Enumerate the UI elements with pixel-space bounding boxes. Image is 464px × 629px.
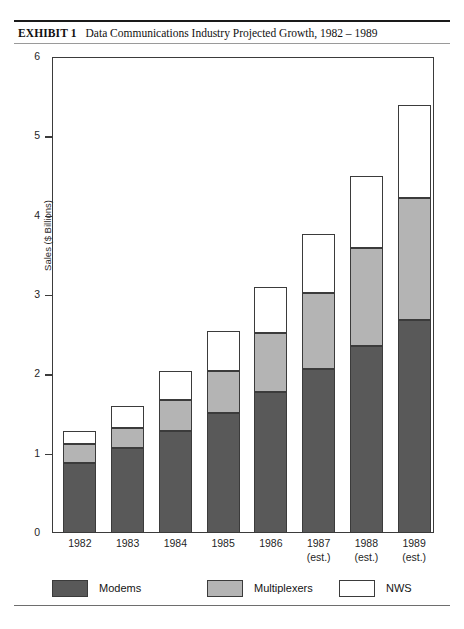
bar-group	[350, 57, 383, 533]
legend-swatch-modems	[52, 580, 88, 597]
bar-segment-modems	[350, 346, 383, 533]
x-axis-tick-label: 1983	[102, 536, 154, 550]
bar-segment-nws	[302, 234, 335, 293]
exhibit-label: EXHIBIT 1	[18, 27, 77, 39]
bar-segment-nws	[398, 105, 431, 199]
y-axis-tick-mark	[45, 374, 52, 375]
header-rule-top	[14, 20, 450, 22]
footer-rule	[14, 605, 450, 606]
x-axis-tick-label: 1986	[245, 536, 297, 550]
legend-swatch-multiplexers	[207, 580, 243, 597]
bar-segment-nws	[254, 287, 287, 333]
y-axis-tick-mark	[45, 454, 52, 455]
bar-group	[111, 57, 144, 533]
bar-segment-modems	[207, 413, 240, 533]
y-axis-tick-label: 3	[34, 288, 40, 301]
x-axis-year: 1985	[211, 537, 234, 549]
bar-segment-modems	[302, 369, 335, 533]
x-axis-year: 1984	[164, 537, 187, 549]
x-axis-year: 1987	[307, 537, 330, 549]
y-axis-tick-mark	[45, 57, 52, 58]
x-axis-year: 1982	[68, 537, 91, 549]
x-axis-year: 1983	[116, 537, 139, 549]
bar-segment-modems	[63, 463, 96, 533]
y-axis-tick: 5	[0, 136, 52, 137]
x-axis-tick-label: 1988(est.)	[340, 536, 392, 564]
bar-segment-multiplexers	[350, 248, 383, 346]
bar-segment-nws	[159, 371, 192, 400]
x-axis-tick-label: 1985	[197, 536, 249, 550]
bar-segment-nws	[350, 176, 383, 248]
y-axis-tick-label: 5	[34, 129, 40, 142]
y-axis-tick-label: 1	[34, 447, 40, 460]
bar-group	[254, 57, 287, 533]
x-axis-year: 1989	[402, 537, 425, 549]
bar-segment-multiplexers	[302, 293, 335, 369]
x-axis-tick-label: 1987(est.)	[293, 536, 345, 564]
bar-segment-multiplexers	[111, 428, 144, 448]
bar-segment-multiplexers	[207, 371, 240, 413]
x-axis-estimate-note: (est.)	[293, 550, 345, 564]
legend-swatch-nws	[339, 580, 375, 597]
bar-segment-multiplexers	[398, 198, 431, 320]
bar-segment-modems	[159, 431, 192, 533]
bar-segment-multiplexers	[254, 333, 287, 392]
y-axis-tick: 0	[0, 533, 52, 534]
bar-group	[159, 57, 192, 533]
exhibit-title-row: EXHIBIT 1Data Communications Industry Pr…	[18, 24, 448, 42]
bar-segment-multiplexers	[159, 400, 192, 432]
x-axis-tick-label: 1984	[149, 536, 201, 550]
legend-label: NWS	[386, 582, 412, 594]
y-axis-tick-label: 0	[34, 526, 40, 539]
y-axis-tick-label: 2	[34, 367, 40, 380]
y-axis-tick: 6	[0, 57, 52, 58]
bar-group	[63, 57, 96, 533]
bar-group	[398, 57, 431, 533]
bar-segment-modems	[254, 392, 287, 533]
y-axis-tick: 2	[0, 374, 52, 375]
bar-group	[302, 57, 335, 533]
bar-group	[207, 57, 240, 533]
exhibit-page: EXHIBIT 1Data Communications Industry Pr…	[0, 0, 464, 629]
x-axis: 198219831984198519861987(est.)1988(est.)…	[52, 536, 434, 572]
y-axis-tick: 1	[0, 454, 52, 455]
y-axis-tick-label: 4	[34, 209, 40, 222]
bar-series-layer	[52, 57, 434, 533]
chart-legend: ModemsMultiplexersNWS	[52, 578, 442, 600]
bar-segment-nws	[207, 331, 240, 371]
x-axis-tick-label: 1989(est.)	[388, 536, 440, 564]
header-rule-under-title	[14, 43, 450, 44]
y-axis-tick-mark	[45, 136, 52, 137]
y-axis-tick-label: 6	[34, 50, 40, 63]
page-title: Data Communications Industry Projected G…	[86, 27, 378, 39]
x-axis-estimate-note: (est.)	[340, 550, 392, 564]
legend-item: NWS	[339, 578, 412, 598]
legend-label: Modems	[99, 582, 141, 594]
y-axis-tick-mark	[45, 533, 52, 534]
bar-segment-multiplexers	[63, 444, 96, 463]
x-axis-year: 1986	[259, 537, 282, 549]
bar-segment-nws	[111, 406, 144, 428]
bar-segment-modems	[111, 448, 144, 533]
legend-item: Modems	[52, 578, 141, 598]
x-axis-year: 1988	[355, 537, 378, 549]
x-axis-estimate-note: (est.)	[388, 550, 440, 564]
legend-item: Multiplexers	[207, 578, 313, 598]
legend-label: Multiplexers	[254, 582, 313, 594]
bar-segment-modems	[398, 320, 431, 533]
y-axis-title: Sales ($ Billions)	[42, 166, 53, 306]
x-axis-tick-label: 1982	[54, 536, 106, 550]
bar-segment-nws	[63, 431, 96, 444]
